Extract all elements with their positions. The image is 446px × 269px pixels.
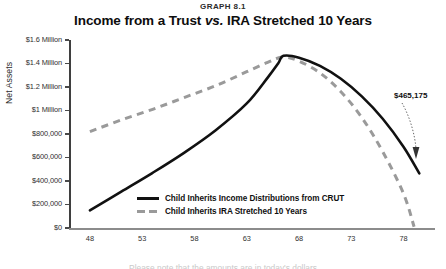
y-tick-label: $800,000: [32, 129, 62, 138]
title-emphasis: vs.: [205, 13, 223, 28]
y-tick-label: $1.4 Million: [26, 58, 62, 67]
x-tick-label: 63: [233, 234, 261, 243]
annotation-arrow-icon: [398, 101, 434, 163]
chart-page: GRAPH 8.1 Income from a Trust vs. IRA St…: [0, 0, 446, 269]
x-tick-label: 58: [180, 234, 208, 243]
graph-number: GRAPH 8.1: [0, 2, 446, 11]
y-tick-label: $1.6 Million: [26, 35, 62, 44]
caption-sliver: Please note that the amounts are in toda…: [0, 263, 446, 269]
title-part-after: IRA Stretched 10 Years: [223, 13, 372, 28]
x-tick-label: 78: [390, 234, 418, 243]
x-tick-label: 53: [128, 234, 156, 243]
chart-legend: Child Inherits Income Distributions from…: [137, 193, 344, 219]
series-line-crut: [90, 55, 419, 210]
x-tick-label: 68: [285, 234, 313, 243]
y-tick-label: $0: [54, 223, 62, 232]
legend-swatch-dashed-icon: [137, 206, 159, 217]
page-title: Income from a Trust vs. IRA Stretched 10…: [0, 13, 446, 28]
legend-swatch-solid-icon: [137, 193, 159, 204]
y-tick-label: $400,000: [32, 176, 62, 185]
x-tick-label: 73: [337, 234, 365, 243]
legend-label-ira: Child Inherits IRA Stretched 10 Years: [165, 207, 307, 216]
y-tick-label: $1.2 Million: [26, 82, 62, 91]
legend-label-crut: Child Inherits Income Distributions from…: [165, 194, 344, 203]
x-tick-label: 48: [76, 234, 104, 243]
y-axis-title: Net Assets: [4, 62, 14, 104]
title-part-before: Income from a Trust: [74, 13, 205, 28]
legend-item-crut: Child Inherits Income Distributions from…: [137, 193, 344, 204]
y-tick-label: $200,000: [32, 199, 62, 208]
legend-item-ira: Child Inherits IRA Stretched 10 Years: [137, 206, 344, 217]
y-tick-label: $600,000: [32, 152, 62, 161]
y-tick-label: $1 Million: [32, 105, 62, 114]
annotation-value-label: $465,175: [394, 91, 427, 100]
x-axis-line: [69, 228, 435, 230]
